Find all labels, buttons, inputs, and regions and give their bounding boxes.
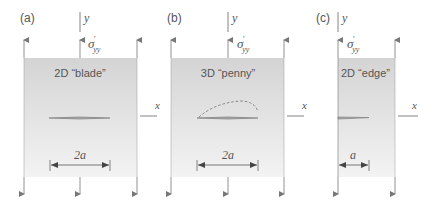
stress-symbol: σ′yy — [237, 35, 250, 54]
panel-c: y (c) σ′yy 2D “edge” a x — [316, 11, 418, 194]
dimension-label: 2a — [74, 148, 86, 162]
crack — [49, 117, 110, 119]
x-axis-label: x — [301, 99, 307, 111]
x-axis-label: x — [411, 99, 417, 111]
panel-label: (c) — [316, 11, 330, 25]
panel-title: 2D “blade” — [54, 67, 106, 79]
panel-title: 2D “edge” — [341, 67, 390, 79]
stress-symbol: σ′yy — [347, 35, 360, 54]
y-axis-label: y — [341, 11, 348, 25]
x-axis-label: x — [154, 99, 160, 111]
panel-title: 3D “penny” — [201, 67, 256, 79]
y-axis-label: y — [231, 11, 238, 25]
dimension-label: 2a — [222, 148, 234, 162]
stress-symbol: σ′yy — [88, 35, 101, 54]
panel-b: y (b) σ′yy 3D “penny” 2a x — [167, 11, 307, 194]
panel-label: (b) — [167, 11, 182, 25]
y-axis-label: y — [83, 11, 90, 25]
panel-label: (a) — [20, 11, 35, 25]
crack-geometry-diagram: y (a) σ′yy 2D “blade” 2a x y (b) σ′yy — [0, 0, 433, 210]
crack — [197, 117, 258, 119]
panel-a: y (a) σ′yy 2D “blade” 2a x — [20, 11, 160, 194]
dimension-label: a — [350, 148, 356, 162]
